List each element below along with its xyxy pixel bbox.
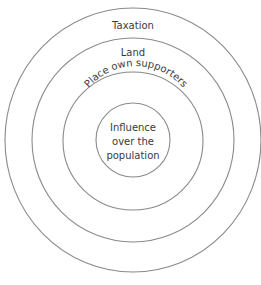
label-land: Land xyxy=(121,47,145,58)
label-influence-line2: over the xyxy=(112,136,154,147)
label-taxation: Taxation xyxy=(111,20,154,31)
label-influence-line3: population xyxy=(106,150,159,161)
concentric-diagram: Taxation Land Place own supporters Influ… xyxy=(0,0,261,285)
label-influence-line1: Influence xyxy=(110,122,156,133)
